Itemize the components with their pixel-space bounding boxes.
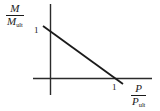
x-axis-fraction: P Pult [131, 83, 146, 108]
x-axis-tick-label-1: 1 [112, 83, 117, 92]
interaction-line [43, 26, 123, 84]
x-axis-numerator: P [131, 83, 146, 94]
y-axis-denominator: Mult [6, 16, 24, 28]
y-axis-tick-label-1: 1 [34, 26, 39, 35]
figure-canvas: M Mult P Pult 1 1 [0, 0, 160, 111]
y-axis-numerator: M [6, 3, 24, 14]
x-axis-denominator: Pult [131, 96, 146, 108]
y-axis-label: M Mult [6, 3, 24, 28]
x-axis-denominator-subscript: ult [139, 101, 146, 108]
x-axis-label: P Pult [131, 83, 146, 108]
y-axis-denominator-subscript: ult [16, 21, 23, 28]
y-axis-fraction: M Mult [6, 3, 24, 28]
